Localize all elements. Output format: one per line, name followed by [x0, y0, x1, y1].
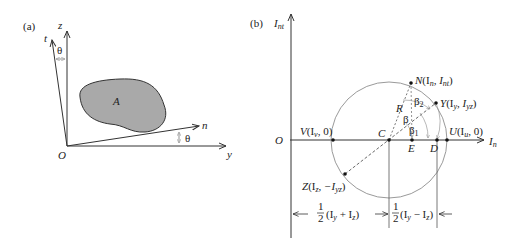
- panel-b-tag: (b): [250, 17, 263, 30]
- svg-text:(Iy − Iz): (Iy − Iz): [400, 208, 433, 222]
- label-r: R: [395, 102, 403, 114]
- t-axis-label: t: [44, 32, 48, 44]
- n-axis-label: n: [202, 119, 208, 131]
- panel-a-tag: (a): [23, 20, 36, 33]
- figure: (a) A z t n y O θ θ (b) Int In O: [0, 0, 516, 250]
- area-shape: [80, 79, 166, 132]
- label-n: N(In, Int): [414, 74, 453, 88]
- dim-right-label: 1 2 (Iy − Iz): [392, 200, 433, 224]
- point-y: [434, 101, 438, 105]
- panel-a: (a) A z t n y O θ θ: [23, 19, 232, 161]
- area-label: A: [112, 95, 120, 107]
- label-u: U(Iu, 0): [449, 125, 483, 139]
- point-v: [331, 138, 335, 142]
- label-e: E: [407, 142, 415, 154]
- point-n: [409, 81, 413, 85]
- point-u: [445, 138, 449, 142]
- y-axis-label: y: [226, 148, 232, 160]
- svg-text:2: 2: [318, 212, 324, 224]
- int-axis-label: Int: [273, 17, 285, 31]
- label-beta2: β2: [414, 95, 424, 109]
- label-beta1: β1: [409, 124, 419, 138]
- svg-text:1: 1: [318, 200, 324, 212]
- dim-left-label: 1 2 (Iy + Iz): [317, 200, 359, 224]
- label-v: V(Iv, 0): [300, 125, 333, 139]
- svg-text:1: 1: [393, 200, 399, 212]
- theta-top-label: θ: [57, 44, 62, 56]
- panel-b: (b) Int In O N(In, Int) Y(Iy, Iyz): [250, 14, 497, 238]
- point-z: [343, 172, 347, 176]
- label-z: Z(Iz, −Iyz): [302, 180, 346, 194]
- point-c: [387, 138, 391, 142]
- label-c: C: [378, 127, 386, 139]
- label-y: Y(Iy, Iyz): [440, 97, 477, 111]
- origin-label: O: [58, 149, 66, 161]
- in-axis-label: In: [488, 135, 497, 149]
- theta-bottom-label: θ: [185, 132, 190, 144]
- svg-text:2: 2: [393, 212, 399, 224]
- beta1-arc: [420, 113, 428, 138]
- label-d: D: [429, 142, 438, 154]
- svg-text:(Iy + Iz): (Iy + Iz): [326, 208, 359, 222]
- origin-b-label: O: [275, 134, 283, 146]
- diameter-yz: [345, 103, 436, 174]
- z-axis-label: z: [57, 19, 63, 31]
